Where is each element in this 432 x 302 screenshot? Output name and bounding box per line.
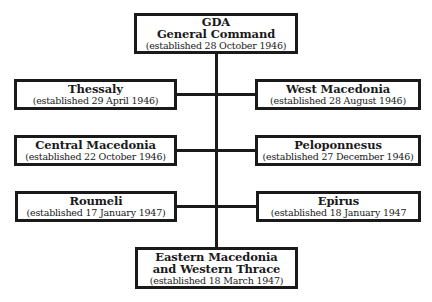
connector-right-3	[217, 205, 256, 208]
thessaly-title: Thessaly	[68, 83, 123, 95]
roumeli-established: (established 17 January 1947)	[26, 207, 165, 218]
root-established: (established 28 October 1946)	[146, 40, 287, 51]
gda-general-command-box: GDA General Command (established 28 Octo…	[134, 13, 298, 54]
connector-right-1	[217, 93, 256, 96]
roumeli-box: Roumeli (established 17 January 1947)	[15, 191, 177, 222]
thessaly-established: (established 29 April 1946)	[33, 95, 159, 106]
peloponnesus-box: Peloponnesus (established 27 December 19…	[255, 135, 421, 166]
roumeli-title: Roumeli	[69, 195, 122, 207]
thessaly-box: Thessaly (established 29 April 1946)	[14, 79, 177, 110]
peloponnesus-title: Peloponnesus	[294, 139, 382, 151]
epirus-established: (established 18 January 1947	[271, 207, 407, 218]
central-macedonia-box: Central Macedonia (established 22 Octobe…	[14, 135, 177, 166]
bottom-title-line-1: Eastern Macedonia	[155, 251, 277, 263]
peloponnesus-established: (established 27 December 1946)	[262, 151, 413, 162]
bottom-established: (established 18 March 1947)	[150, 275, 284, 286]
eastern-macedonia-western-thrace-box: Eastern Macedonia and Western Thrace (es…	[135, 247, 298, 289]
epirus-box: Epirus (established 18 January 1947	[256, 191, 421, 222]
west-macedonia-title: West Macedonia	[286, 83, 390, 95]
epirus-title: Epirus	[318, 195, 359, 207]
connector-right-2	[217, 149, 256, 152]
central-macedonia-title: Central Macedonia	[35, 139, 156, 151]
central-macedonia-established: (established 22 October 1946)	[25, 151, 166, 162]
connector-left-2	[175, 149, 216, 152]
connector-left-1	[175, 93, 216, 96]
west-macedonia-established: (established 28 August 1946)	[270, 95, 406, 106]
root-title-line-2: General Command	[157, 28, 275, 40]
bottom-title-line-2: and Western Thrace	[153, 263, 281, 275]
west-macedonia-box: West Macedonia (established 28 August 19…	[255, 79, 421, 110]
connector-left-3	[175, 205, 216, 208]
